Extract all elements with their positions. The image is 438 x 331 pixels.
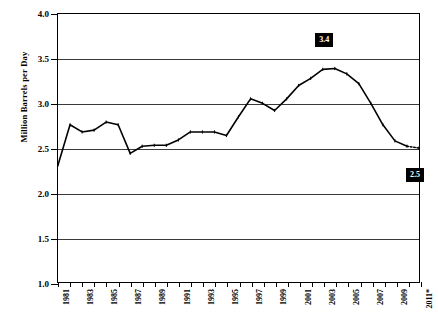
x-axis-tick <box>227 282 228 287</box>
x-axis-label: 1981 <box>62 289 71 305</box>
y-axis-label: 1.5 <box>38 234 49 244</box>
x-axis-tick <box>348 282 349 287</box>
y-axis-tick <box>51 284 58 285</box>
y-axis-title: Million Barrels per Day <box>19 27 29 167</box>
value-callout-3-4: 3.4 <box>315 33 333 47</box>
x-axis-tick <box>58 282 59 287</box>
x-axis-label: 2007 <box>376 289 385 305</box>
x-axis-tick <box>191 282 192 287</box>
x-axis-tick <box>361 282 362 287</box>
y-axis-label: 1.0 <box>38 279 49 289</box>
x-axis-tick <box>421 282 422 287</box>
x-axis-tick <box>240 282 241 287</box>
y-axis-tick <box>51 149 58 150</box>
x-axis-label: 2011* <box>425 289 434 309</box>
x-axis-tick <box>94 282 95 287</box>
x-axis-label: 1993 <box>207 289 216 305</box>
y-axis-tick <box>51 14 58 15</box>
x-axis-tick <box>252 282 253 287</box>
x-axis-label: 1997 <box>255 289 264 305</box>
y-axis-label: 4.0 <box>38 9 49 19</box>
x-axis-tick <box>397 282 398 287</box>
x-axis-tick <box>167 282 168 287</box>
x-axis-tick <box>203 282 204 287</box>
x-axis-tick <box>409 282 410 287</box>
x-axis-tick <box>373 282 374 287</box>
x-axis-tick <box>324 282 325 287</box>
x-axis-label: 1987 <box>134 289 143 305</box>
x-axis-tick <box>312 282 313 287</box>
x-axis-label: 1989 <box>158 289 167 305</box>
x-axis-tick <box>143 282 144 287</box>
x-axis-tick <box>264 282 265 287</box>
x-axis-tick <box>179 282 180 287</box>
x-axis-label: 2005 <box>352 289 361 305</box>
plot-area: 4.03.53.02.52.01.51.0 198119831985198719… <box>57 13 420 283</box>
x-axis-tick <box>288 282 289 287</box>
x-axis-tick <box>155 282 156 287</box>
x-axis-label: 1983 <box>86 289 95 305</box>
x-axis-label: 1985 <box>110 289 119 305</box>
y-axis-tick <box>51 239 58 240</box>
y-axis-label: 3.5 <box>38 54 49 64</box>
x-axis-tick <box>300 282 301 287</box>
y-axis-tick <box>51 59 58 60</box>
x-axis-label: 2001 <box>304 289 313 305</box>
series-line-observed <box>58 68 407 164</box>
y-axis-label: 2.0 <box>38 189 49 199</box>
x-axis-label: 2003 <box>328 289 337 305</box>
x-axis-tick <box>106 282 107 287</box>
x-axis-label: 1999 <box>279 289 288 305</box>
x-axis-tick <box>131 282 132 287</box>
y-axis-label: 2.5 <box>38 144 49 154</box>
data-series-line <box>58 14 419 282</box>
y-axis-tick <box>51 194 58 195</box>
x-axis-tick <box>215 282 216 287</box>
x-axis-tick <box>70 282 71 287</box>
x-axis-tick <box>82 282 83 287</box>
series-line-projected <box>407 146 419 148</box>
x-axis-label: 1995 <box>231 289 240 305</box>
x-axis-tick <box>119 282 120 287</box>
y-axis-tick <box>51 104 58 105</box>
x-axis-label: 1991 <box>183 289 192 305</box>
x-axis-tick <box>336 282 337 287</box>
value-callout-2-5: 2.5 <box>406 168 424 182</box>
x-axis-tick <box>385 282 386 287</box>
x-axis-tick <box>276 282 277 287</box>
x-axis-label: 2009 <box>400 289 409 305</box>
y-axis-label: 3.0 <box>38 99 49 109</box>
chart-figure: Million Barrels per Day 4.03.53.02.52.01… <box>0 0 438 331</box>
